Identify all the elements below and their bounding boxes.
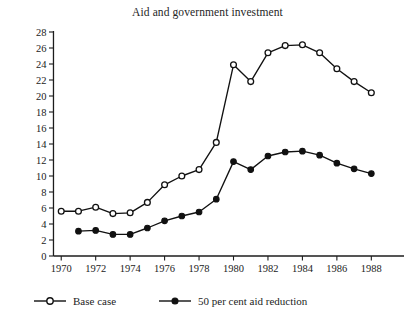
- data-point: [213, 196, 219, 202]
- data-point: [334, 160, 340, 166]
- data-point: [334, 66, 340, 72]
- data-point: [317, 152, 323, 158]
- data-point: [369, 171, 375, 177]
- x-tick-label: 1974: [120, 263, 142, 274]
- data-point: [76, 228, 82, 234]
- data-point: [93, 204, 99, 210]
- data-point: [351, 79, 357, 85]
- series-base-case: [58, 42, 374, 217]
- y-tick-label: 20: [36, 91, 47, 102]
- data-point: [248, 167, 254, 173]
- data-point: [282, 149, 288, 155]
- data-point: [265, 153, 271, 159]
- data-point: [145, 225, 151, 231]
- data-point: [265, 50, 271, 56]
- data-point: [144, 200, 150, 206]
- plot-area: 0246810121416182022242628 19701972197419…: [0, 0, 415, 292]
- data-point: [179, 173, 185, 179]
- data-point: [231, 159, 237, 165]
- y-tick-label: 16: [36, 123, 47, 134]
- x-axis: 1970197219741976197819801982198419861988: [51, 256, 404, 274]
- y-tick-label: 28: [36, 27, 47, 38]
- data-point: [248, 79, 254, 85]
- x-tick-label: 1982: [257, 263, 278, 274]
- data-point: [179, 213, 185, 219]
- data-point: [127, 210, 133, 216]
- x-tick-label: 1970: [51, 263, 72, 274]
- data-point: [110, 232, 116, 238]
- data-point: [110, 211, 116, 217]
- data-point: [300, 148, 306, 154]
- data-point: [282, 43, 288, 49]
- legend-entry: Base case: [33, 292, 116, 310]
- legend-entry: 50 per cent aid reduction: [158, 292, 307, 310]
- y-tick-label: 22: [36, 75, 47, 86]
- series-line: [78, 151, 371, 234]
- data-point: [127, 232, 133, 238]
- data-point: [368, 90, 374, 96]
- y-tick-label: 12: [36, 155, 47, 166]
- x-tick-label: 1984: [292, 263, 314, 274]
- y-tick-label: 14: [36, 139, 47, 150]
- data-point: [300, 42, 306, 48]
- chart-legend: Base case50 per cent aid reduction: [0, 292, 415, 318]
- x-tick-label: 1980: [223, 263, 244, 274]
- data-point: [196, 209, 202, 215]
- y-tick-label: 26: [36, 43, 47, 54]
- legend-label: Base case: [73, 295, 116, 307]
- y-axis: 0246810121416182022242628: [36, 27, 54, 262]
- x-tick-label: 1972: [85, 263, 106, 274]
- y-tick-label: 4: [41, 219, 47, 230]
- filled-circle-icon: [158, 294, 192, 308]
- data-point: [196, 167, 202, 173]
- data-point: [162, 182, 168, 188]
- series-aid-reduction: [76, 148, 374, 237]
- data-point: [317, 50, 323, 56]
- x-tick-label: 1988: [361, 263, 382, 274]
- data-point: [213, 140, 219, 146]
- series-layer: [58, 42, 374, 237]
- x-tick-label: 1978: [189, 263, 210, 274]
- data-point: [351, 166, 357, 172]
- data-point: [58, 208, 64, 214]
- chart-figure: Aid and government investment 0246810121…: [0, 0, 415, 324]
- data-point: [93, 228, 99, 234]
- legend-label: 50 per cent aid reduction: [198, 295, 307, 307]
- x-tick-label: 1976: [154, 263, 175, 274]
- y-tick-label: 10: [36, 171, 47, 182]
- data-point: [162, 218, 168, 224]
- y-tick-label: 24: [36, 59, 47, 70]
- y-tick-label: 2: [41, 235, 46, 246]
- y-tick-label: 8: [41, 187, 46, 198]
- data-point: [76, 208, 82, 214]
- series-line: [61, 45, 371, 214]
- open-circle-icon: [33, 294, 67, 308]
- y-tick-label: 0: [41, 251, 46, 262]
- data-point: [231, 62, 237, 68]
- y-tick-label: 6: [41, 203, 46, 214]
- x-tick-label: 1986: [326, 263, 347, 274]
- y-tick-label: 18: [36, 107, 47, 118]
